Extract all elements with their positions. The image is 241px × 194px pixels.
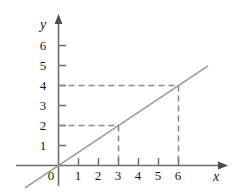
y-axis-label: y [40,18,46,32]
y-tick-label-6: 6 [36,39,50,52]
y-tick-label-3: 3 [36,99,50,112]
x-axis-arrowhead [218,162,228,170]
y-axis-arrowhead [55,14,63,24]
x-axis-label: x [213,170,219,184]
x-tick-label-2: 2 [91,169,105,182]
y-tick-label-5: 5 [36,59,50,72]
y-tick-label-1: 1 [36,139,50,152]
x-tick-label-5: 5 [151,169,165,182]
x-tick-label-4: 4 [131,169,145,182]
x-tick-label-1: 1 [71,169,85,182]
coordinate-plot [0,0,241,194]
x-tick-label-6: 6 [171,169,185,182]
y-tick-label-2: 2 [36,119,50,132]
origin-label: 0 [44,169,58,182]
x-tick-label-3: 3 [111,169,125,182]
y-axis-ticks [59,46,67,146]
graph-figure: 6 5 4 3 2 1 0 1 2 3 4 5 6 y x [0,0,241,194]
x-axis-ticks [79,158,179,166]
y-tick-label-4: 4 [36,79,50,92]
